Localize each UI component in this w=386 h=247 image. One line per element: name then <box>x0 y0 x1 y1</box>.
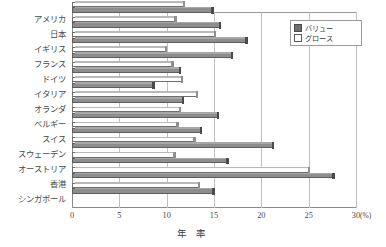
bar-top-face <box>75 16 175 18</box>
bar-end-cap <box>231 52 234 59</box>
bar-value <box>72 7 212 12</box>
bar-value <box>72 53 232 58</box>
legend-swatch-growth-icon <box>294 34 302 42</box>
bar-value <box>72 83 153 88</box>
bar-top-face <box>75 122 177 124</box>
bar-top-face <box>75 152 174 154</box>
bar-row <box>72 166 356 181</box>
legend-label-value: バリュー <box>305 23 333 33</box>
bar-value <box>72 68 180 73</box>
bar-top-face <box>75 182 198 184</box>
bar-end-cap <box>152 82 155 89</box>
x-tick-5: 5 <box>117 211 121 220</box>
y-tick-label: オーストリア <box>0 165 66 174</box>
bar-row <box>72 136 356 151</box>
bar-row <box>72 75 356 90</box>
bar-end-cap <box>217 112 220 119</box>
bar-top-face <box>75 37 246 39</box>
bar-end-cap <box>212 188 215 195</box>
bar-row <box>72 0 356 15</box>
bar-top-face <box>75 46 165 48</box>
bar-value <box>72 143 273 148</box>
bar-row <box>72 60 356 75</box>
legend-item-growth: グロース <box>294 33 358 43</box>
bar-row <box>72 90 356 105</box>
bar-top-face <box>75 167 308 169</box>
bar-value <box>72 38 246 43</box>
bar-top-face <box>75 127 200 129</box>
bar-value <box>72 188 213 193</box>
bar-row <box>72 121 356 136</box>
y-tick-label: スイス <box>0 135 66 144</box>
legend: バリュー グロース <box>290 20 362 46</box>
y-tick-label: フランス <box>0 60 66 69</box>
y-tick-label: シンガポール <box>0 195 66 204</box>
bar-top-face <box>75 31 214 33</box>
bar-end-cap <box>179 67 182 74</box>
bar-row <box>72 151 356 166</box>
bar-value <box>72 113 218 118</box>
bar-top-face <box>75 91 196 93</box>
y-tick-label: イタリア <box>0 90 66 99</box>
y-tick-label: オランダ <box>0 105 66 114</box>
x-tick-15: 15 <box>210 211 218 220</box>
bar-value <box>72 22 220 27</box>
legend-item-value: バリュー <box>294 23 358 33</box>
bar-top-face <box>75 107 179 109</box>
bar-end-cap <box>211 7 214 14</box>
bar-top-face <box>75 142 272 144</box>
y-axis-labels: アメリカ日本イギリスフランスドイツイタリアオランダベルギースイススウェーデンオー… <box>0 12 70 208</box>
bar-end-cap <box>182 97 185 104</box>
bar-end-cap <box>219 22 222 29</box>
x-tick-0: 0 <box>70 211 74 220</box>
x-axis-title: 年 率 <box>0 226 386 240</box>
x-tick-20: 20 <box>257 211 265 220</box>
bar-end-cap <box>196 91 199 98</box>
bar-value <box>72 173 333 178</box>
bar-top-face <box>75 67 179 69</box>
bar-row <box>72 106 356 121</box>
x-tick-10: 10 <box>163 211 171 220</box>
bar-top-face <box>75 158 227 160</box>
bar-top-face <box>75 22 219 24</box>
bar-end-cap <box>245 37 248 44</box>
bar-value <box>72 158 227 163</box>
x-axis-unit: (%) <box>360 211 371 220</box>
y-tick-label: ドイツ <box>0 75 66 84</box>
bar-top-face <box>75 97 182 99</box>
bar-end-cap <box>272 142 275 149</box>
y-tick-label: イギリス <box>0 45 66 54</box>
bar-top-face <box>75 173 333 175</box>
bar-top-face <box>75 52 231 54</box>
bar-top-face <box>75 188 213 190</box>
bar-top-face <box>75 7 212 9</box>
bar-end-cap <box>200 127 203 134</box>
bar-top-face <box>75 137 194 139</box>
y-tick-label: アメリカ <box>0 15 66 24</box>
y-tick-label: 香港 <box>0 180 66 189</box>
bar-top-face <box>75 1 183 3</box>
bar-row <box>72 45 356 60</box>
bar-end-cap <box>226 158 229 165</box>
bar-top-face <box>75 76 181 78</box>
legend-swatch-value-icon <box>294 24 302 32</box>
bar-value <box>72 98 183 103</box>
x-tick-30: 30 <box>352 211 360 220</box>
bar-top-face <box>75 112 217 114</box>
y-tick-label: 日本 <box>0 30 66 39</box>
bar-row <box>72 181 356 196</box>
bar-top-face <box>75 61 172 63</box>
bar-top-face <box>75 82 153 84</box>
x-tick-25: 25 <box>305 211 313 220</box>
bar-end-cap <box>332 173 335 180</box>
chart-figure: アメリカ日本イギリスフランスドイツイタリアオランダベルギースイススウェーデンオー… <box>0 0 386 247</box>
y-tick-label: スウェーデン <box>0 150 66 159</box>
y-tick-label: ベルギー <box>0 120 66 129</box>
bar-end-cap <box>181 76 184 83</box>
legend-label-growth: グロース <box>305 33 333 43</box>
bar-value <box>72 128 201 133</box>
